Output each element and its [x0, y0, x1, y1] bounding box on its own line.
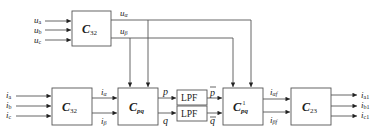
- q-label: q: [163, 115, 168, 126]
- ua-label: ua: [34, 15, 42, 25]
- u-beta-label: uβ: [120, 26, 128, 36]
- u-beta-line-right: [111, 38, 233, 87]
- uc-label: uc: [34, 35, 42, 45]
- c23-label: C23: [302, 100, 318, 115]
- u-alpha-line-right: [111, 20, 251, 87]
- ib1-label: ib1: [361, 100, 370, 110]
- p-label: p: [162, 86, 168, 97]
- u-alpha-label: uα: [120, 8, 129, 18]
- i-beta-f-label: iβf: [270, 115, 279, 125]
- cpq-label: Cpq: [129, 100, 145, 115]
- ib-label: ib: [6, 100, 12, 110]
- c32-current-label: C32: [62, 100, 78, 115]
- i-alpha-label: iα: [101, 87, 108, 97]
- ic-label: ic: [6, 110, 12, 120]
- p-bar-label: p: [209, 87, 215, 98]
- i-alpha-f-label: iαf: [270, 87, 279, 97]
- i-beta-label: iβ: [101, 116, 107, 126]
- q-bar-label: q: [210, 115, 215, 126]
- lpf-q-label: LPF: [181, 109, 197, 119]
- ic1-label: ic1: [361, 110, 369, 120]
- block-diagram: C32 C32 Cpq LPF LPF Cpq−1 C23 ua ub uc u…: [0, 0, 384, 135]
- lpf-p-label: LPF: [181, 93, 197, 103]
- ia-label: ia: [6, 90, 12, 100]
- ub-label: ub: [34, 25, 42, 35]
- cpq-inverse-label: Cpq−1: [233, 100, 249, 115]
- c32-voltage-label: C32: [82, 22, 98, 37]
- ia1-label: ia1: [361, 90, 369, 100]
